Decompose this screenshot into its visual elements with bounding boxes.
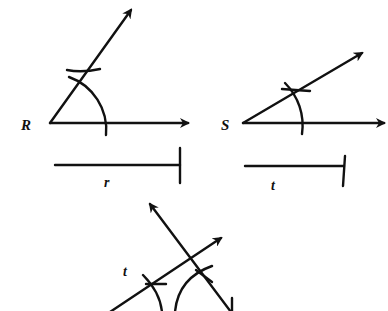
angle-s-figure: S t	[221, 53, 384, 193]
arc-r-cross	[67, 69, 100, 71]
label-R: R	[20, 117, 31, 133]
angle-r-figure: R r	[20, 10, 188, 190]
ray-r-diagonal	[50, 10, 131, 123]
label-t-construction: t	[123, 264, 128, 279]
ray-s-diagonal	[243, 53, 362, 123]
construction-arc-right-cross	[196, 270, 212, 282]
segment-t-end-tick	[343, 156, 345, 186]
arc-r	[69, 77, 106, 135]
construction-diagram: R r S t t	[0, 0, 388, 311]
construction-ray-2	[150, 204, 231, 311]
construction-arc-right	[175, 266, 212, 311]
label-r: r	[104, 175, 110, 190]
label-S: S	[221, 117, 229, 133]
label-t: t	[271, 178, 276, 193]
construction-figure: t	[110, 204, 232, 311]
arc-s-cross	[282, 89, 310, 91]
